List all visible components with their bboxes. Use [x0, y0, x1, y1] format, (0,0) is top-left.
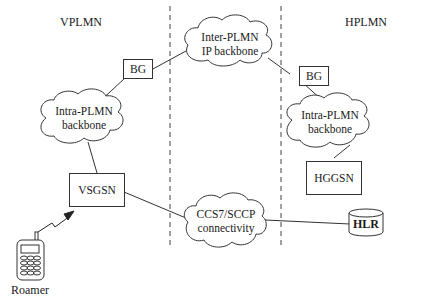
- region-label-vplmn: VPLMN: [60, 15, 102, 30]
- cloud-label-inter-plmn: Inter-PLMN IP backbone: [190, 30, 270, 58]
- cloud-label-line1: Intra-PLMN: [290, 108, 370, 122]
- cloud-label-intra-home: Intra-PLMN backbone: [290, 108, 370, 136]
- mobile-phone-icon: [17, 232, 44, 280]
- region-label-hplmn: HPLMN: [345, 15, 387, 30]
- cloud-label-line2: IP backbone: [190, 44, 270, 58]
- cloud-label-line2: backbone: [44, 118, 124, 132]
- node-hggsn: HGGSN: [306, 161, 362, 195]
- cloud-label-line1: Inter-PLMN: [190, 30, 270, 44]
- radio-link-icon: [38, 211, 74, 232]
- node-bg-visited: BG: [123, 59, 153, 79]
- node-bg-home: BG: [299, 66, 329, 86]
- roamer-label: Roamer: [0, 283, 60, 297]
- cloud-label-line1: Intra-PLMN: [44, 104, 124, 118]
- cloud-label-intra-visited: Intra-PLMN backbone: [44, 104, 124, 132]
- node-vsgsn: VSGSN: [69, 173, 125, 207]
- cloud-label-ccs7: CCS7/SCCP connectivity: [186, 207, 266, 235]
- cloud-label-line2: connectivity: [186, 221, 266, 235]
- cloud-label-line2: backbone: [290, 122, 370, 136]
- cloud-label-line1: CCS7/SCCP: [186, 207, 266, 221]
- node-hlr-label: HLR: [349, 217, 383, 231]
